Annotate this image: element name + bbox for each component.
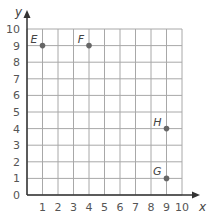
x-tick-label: 7 xyxy=(132,201,139,214)
y-tick-label: 0 xyxy=(13,189,20,202)
y-axis-label: y xyxy=(14,5,23,19)
point-label: F xyxy=(78,33,85,46)
point-marker xyxy=(86,43,92,49)
y-tick-label: 8 xyxy=(13,56,20,69)
coordinate-grid: 12345678910 012345678910 x y EFHG xyxy=(0,0,210,217)
y-tick-label: 1 xyxy=(13,172,20,185)
x-tick-label: 4 xyxy=(86,201,93,214)
point-label: E xyxy=(31,33,38,46)
x-axis-arrow-icon xyxy=(192,192,200,199)
point-marker xyxy=(40,43,46,49)
plotted-points: EFHG xyxy=(31,33,170,182)
y-tick-label: 9 xyxy=(13,40,20,53)
y-tick-label: 5 xyxy=(13,106,20,119)
x-axis-label: x xyxy=(198,200,207,214)
point-label: G xyxy=(153,165,162,178)
x-tick-label: 3 xyxy=(70,201,77,214)
y-tick-label: 10 xyxy=(6,23,20,36)
x-tick-labels: 12345678910 xyxy=(39,201,189,214)
point-marker xyxy=(164,176,170,182)
x-tick-label: 5 xyxy=(101,201,108,214)
y-tick-label: 6 xyxy=(13,89,20,102)
x-tick-label: 9 xyxy=(163,201,170,214)
x-tick-label: 2 xyxy=(55,201,62,214)
y-axis-arrow-icon xyxy=(24,10,31,18)
y-tick-label: 4 xyxy=(13,123,20,136)
point-marker xyxy=(164,126,170,132)
y-tick-labels: 012345678910 xyxy=(6,23,20,202)
point-label: H xyxy=(153,116,161,129)
y-tick-label: 2 xyxy=(13,156,20,169)
x-tick-label: 1 xyxy=(39,201,46,214)
x-tick-label: 10 xyxy=(175,201,189,214)
x-tick-label: 8 xyxy=(148,201,155,214)
axes xyxy=(24,10,201,199)
y-tick-label: 3 xyxy=(13,139,20,152)
x-tick-label: 6 xyxy=(117,201,124,214)
y-tick-label: 7 xyxy=(13,73,20,86)
